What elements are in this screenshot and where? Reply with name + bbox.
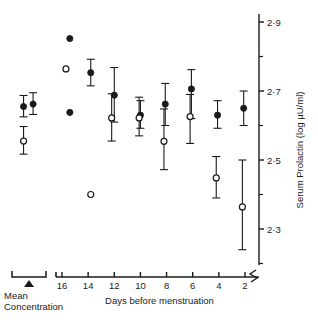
data-point-open	[161, 138, 167, 144]
mean-concentration-bracket	[12, 271, 46, 277]
prolactin-scatter-chart: 2·92·72·52·3Serum Prolactin (log µU/ml)1…	[0, 0, 318, 331]
y-axis-tick-label: 2·3	[267, 224, 281, 235]
x-axis-tick-label: 16	[57, 280, 68, 291]
data-point-filled	[67, 35, 73, 41]
data-point-filled	[214, 112, 220, 118]
data-point-filled	[67, 109, 73, 115]
data-point-open	[187, 114, 193, 120]
y-axis-tick-label: 2·5	[267, 155, 281, 166]
data-point-filled	[30, 101, 36, 107]
mean-concentration-label-line2: Concentration	[4, 301, 63, 312]
x-axis-tick-label: 4	[216, 280, 221, 291]
data-point-open	[88, 192, 94, 198]
mean-concentration-triangle-icon	[24, 280, 34, 287]
data-point-open	[63, 66, 69, 72]
x-axis-break-mark	[250, 270, 257, 282]
x-axis-tick-label: 2	[242, 280, 247, 291]
y-axis-title: Serum Prolactin (log µU/ml)	[294, 92, 305, 209]
data-point-filled	[241, 105, 247, 111]
data-point-open	[213, 175, 219, 181]
data-point-filled	[88, 70, 94, 76]
y-axis-tick-label: 2·7	[267, 86, 281, 97]
data-point-filled	[162, 101, 168, 107]
data-point-open	[136, 115, 142, 121]
x-axis-tick-label: 12	[109, 280, 120, 291]
x-axis-tick-label: 10	[135, 280, 146, 291]
chart-canvas: 2·92·72·52·3Serum Prolactin (log µU/ml)1…	[0, 0, 318, 331]
y-axis-tick-label: 2·9	[267, 17, 281, 28]
x-axis-tick-label: 14	[83, 280, 94, 291]
data-point-open	[239, 204, 245, 210]
data-point-filled	[20, 103, 26, 109]
x-axis-title: Days before menstruation	[105, 295, 214, 306]
data-point-filled	[188, 86, 194, 92]
data-point-open	[21, 138, 27, 144]
mean-concentration-label-line1: Mean	[4, 290, 28, 301]
figure-root: 2·92·72·52·3Serum Prolactin (log µU/ml)1…	[0, 0, 318, 331]
x-axis-tick-label: 8	[164, 280, 169, 291]
x-axis-tick-label: 6	[190, 280, 195, 291]
data-point-open	[109, 115, 115, 121]
